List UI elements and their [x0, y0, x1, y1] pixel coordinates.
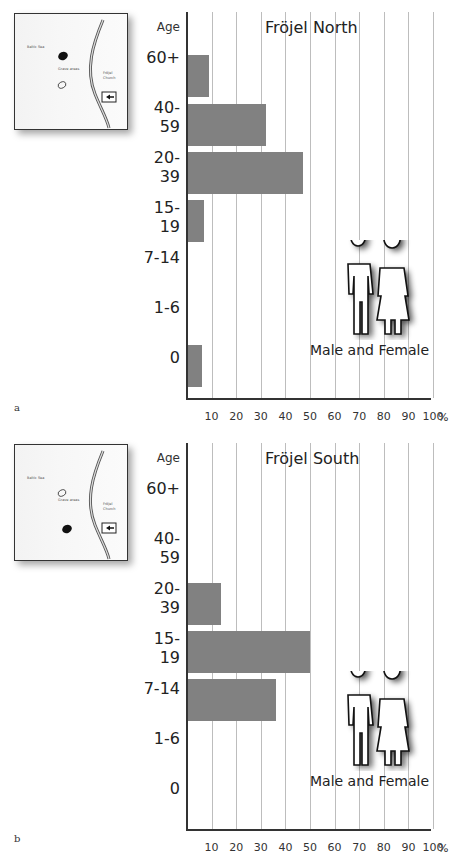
x-tick-label: 60: [328, 841, 342, 854]
x-tick-label: 80: [377, 410, 391, 423]
x-tick-label: 80: [377, 841, 391, 854]
gridline: [433, 12, 434, 398]
bar-7-14: [187, 679, 276, 721]
x-tick-label: 70: [352, 841, 366, 854]
gridline: [384, 443, 385, 829]
x-tick-label: 60: [328, 410, 342, 423]
male-female-icon: [340, 671, 420, 771]
x-tick-label: 90: [401, 841, 415, 854]
panel-label: b: [14, 833, 20, 844]
sea-label: Baltic Sea: [27, 476, 44, 480]
gridline: [310, 443, 311, 829]
legend-label: Male and Female: [310, 342, 429, 358]
y-tick-label: 1-6: [140, 298, 180, 317]
y-tick-label: 7-14: [140, 248, 180, 267]
gridline: [384, 12, 385, 398]
church-label: Fröjel: [103, 71, 112, 75]
x-tick-label: 20: [229, 841, 243, 854]
male-female-icon: [340, 240, 420, 340]
x-tick-label: 20: [229, 410, 243, 423]
gridline: [359, 12, 360, 398]
gridline: [408, 443, 409, 829]
grave-area-other: [57, 489, 67, 498]
bar-20-39: [187, 152, 303, 194]
y-axis-title: Age: [150, 451, 180, 465]
gridline: [285, 12, 286, 398]
x-axis-unit: %: [438, 411, 448, 424]
x-tick-label: 70: [352, 410, 366, 423]
gridline: [359, 443, 360, 829]
bar-40-59: [187, 104, 266, 146]
x-tick-label: 10: [205, 841, 219, 854]
y-tick-label: 60+: [140, 479, 180, 498]
gridline: [335, 443, 336, 829]
gridline: [212, 12, 213, 398]
church-label-2: Church: [103, 507, 115, 511]
plot-area: [187, 12, 438, 398]
x-tick-label: 50: [303, 841, 317, 854]
chart-panel-north: Baltic Sea Grave areas Fröjel Church Age…: [0, 0, 468, 428]
bar-0: [187, 345, 202, 387]
y-tick-label: 7-14: [140, 679, 180, 698]
y-tick-label: 0: [140, 779, 180, 798]
gridline: [310, 12, 311, 398]
x-tick-label: 30: [254, 841, 268, 854]
panel-label: a: [14, 402, 20, 413]
y-axis: [186, 443, 188, 830]
plot-area: [187, 443, 438, 829]
site-map: Baltic Sea Grave areas Fröjel Church: [14, 444, 128, 561]
x-tick-label: 40: [278, 841, 292, 854]
y-tick-label: 20-39: [140, 579, 180, 617]
y-tick-label: 60+: [140, 48, 180, 67]
bar-15-19: [187, 631, 310, 673]
grave-area-selected: [57, 50, 69, 61]
y-tick-label: 40-59: [140, 529, 180, 567]
gridline: [408, 12, 409, 398]
x-axis: [186, 829, 431, 831]
gridline: [335, 12, 336, 398]
church-label: Fröjel: [103, 502, 112, 506]
y-tick-label: 20-39: [140, 148, 180, 186]
gridline: [433, 443, 434, 829]
grave-label: Grave areas: [58, 498, 79, 502]
gridline: [236, 12, 237, 398]
church-label-2: Church: [103, 76, 115, 80]
site-map: Baltic Sea Grave areas Fröjel Church: [14, 13, 128, 130]
y-tick-label: 40-59: [140, 98, 180, 136]
gridline: [261, 12, 262, 398]
female-icon: [377, 240, 409, 334]
bar-60+: [187, 55, 209, 97]
y-axis-title: Age: [150, 20, 180, 34]
chart-title: Fröjel South: [265, 449, 359, 468]
female-icon: [377, 671, 409, 765]
y-tick-label: 15-19: [140, 629, 180, 667]
x-tick-label: 30: [254, 410, 268, 423]
x-tick-label: 50: [303, 410, 317, 423]
y-axis: [186, 12, 188, 399]
y-tick-label: 0: [140, 348, 180, 367]
grave-area-selected: [61, 523, 73, 534]
x-tick-label: 90: [401, 410, 415, 423]
sea-label: Baltic Sea: [27, 45, 44, 49]
grave-area-other: [57, 81, 67, 90]
y-tick-label: 1-6: [140, 729, 180, 748]
x-tick-label: 40: [278, 410, 292, 423]
chart-title: Fröjel North: [265, 18, 358, 37]
y-tick-label: 15-19: [140, 198, 180, 236]
x-tick-label: 10: [205, 410, 219, 423]
x-axis-unit: %: [438, 842, 448, 855]
bar-15-19: [187, 200, 204, 242]
grave-label: Grave areas: [58, 67, 79, 71]
bar-20-39: [187, 583, 221, 625]
chart-panel-south: Baltic Sea Grave areas Fröjel Church Age…: [0, 431, 468, 857]
legend-label: Male and Female: [310, 773, 429, 789]
x-axis: [186, 398, 431, 400]
